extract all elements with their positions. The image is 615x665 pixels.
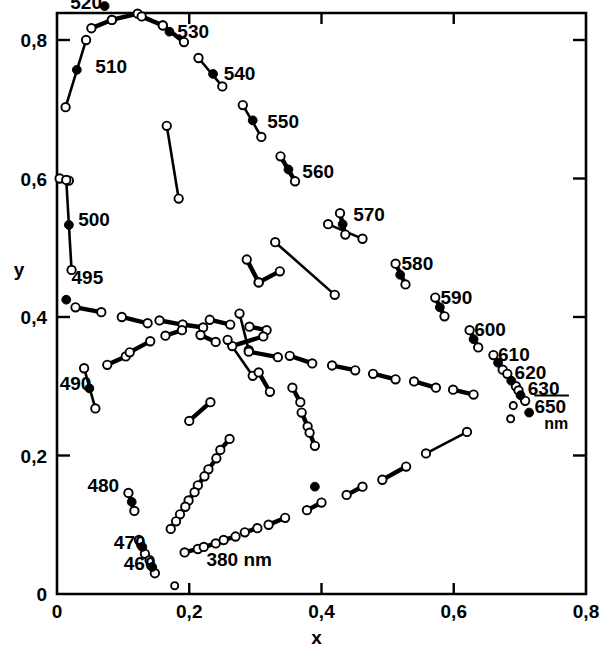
segment-endpoint-marker [401, 280, 409, 288]
segment-endpoint-marker [254, 368, 262, 376]
segment-endpoint-marker [324, 220, 332, 228]
segment-endpoint-marker [196, 331, 204, 339]
isolated-point-marker [507, 415, 514, 422]
segment-endpoint-marker [223, 336, 231, 344]
segment-endpoint-marker [431, 293, 439, 301]
macadam-segment [385, 468, 404, 478]
segment-endpoint-marker [241, 528, 249, 536]
macadam-segment [125, 318, 145, 323]
macadam-segment [213, 320, 228, 323]
segment-endpoint-marker [281, 514, 289, 522]
macadam-segment [293, 357, 310, 363]
reference-wavelength-dot [62, 295, 71, 304]
segment-endpoint-marker [163, 122, 171, 130]
segment-endpoint-marker [264, 521, 272, 529]
macadam-segment [115, 14, 135, 19]
segment-endpoint-marker [286, 352, 294, 360]
segment-endpoint-marker [235, 309, 243, 317]
segment-endpoint-marker [331, 291, 339, 299]
macadam-segment [191, 404, 208, 419]
macadam-segment [248, 262, 257, 280]
wavelength-label: 480 [87, 475, 119, 496]
segment-endpoint-marker [216, 446, 224, 454]
macadam-segment [94, 21, 109, 27]
x-tick-label: 0,6 [441, 601, 467, 622]
wavelength-label: 460 [124, 553, 156, 574]
segment-endpoint-marker [308, 359, 316, 367]
segment-endpoint-marker [91, 404, 99, 412]
wavelength-label: 490 [60, 373, 92, 394]
segment-endpoint-marker [130, 507, 138, 515]
segment-endpoint-marker [378, 476, 386, 484]
wavelength-label: 500 [78, 209, 110, 230]
x-axis-title: x [311, 627, 322, 648]
segment-endpoint-marker [180, 548, 188, 556]
macadam-segment [78, 308, 98, 312]
isolated-point-marker [171, 582, 178, 589]
segment-endpoint-marker [225, 435, 233, 443]
wavelength-label: 580 [402, 253, 434, 274]
x-tick-label: 0,4 [308, 601, 335, 622]
axis-tick-labels: 00,20,40,60,800,20,40,60,8xy [14, 30, 600, 648]
segment-endpoint-marker [341, 230, 349, 238]
chromaticity-diagram-figure: 5205105305405505605705805906006106206306… [0, 0, 615, 665]
segment-endpoint-marker [402, 462, 410, 470]
wavelength-label: 530 [177, 21, 209, 42]
note-380nm: 380 nm [206, 549, 271, 570]
segment-endpoint-marker [178, 326, 186, 334]
segment-endpoint-marker [200, 472, 208, 480]
segment-endpoint-marker [271, 238, 279, 246]
segment-endpoint-marker [243, 255, 251, 263]
macadam-segment [261, 273, 277, 281]
segment-endpoint-marker [61, 103, 69, 111]
wavelength-label: 470 [114, 532, 146, 553]
wavelength-label: 495 [72, 267, 104, 288]
segment-endpoint-marker [303, 506, 311, 514]
segment-endpoint-marker [71, 303, 79, 311]
segment-endpoint-marker [155, 316, 163, 324]
segment-endpoint-marker [185, 417, 193, 425]
segment-endpoint-marker [174, 194, 182, 202]
segment-endpoint-marker [161, 331, 169, 339]
segment-endpoint-marker [190, 488, 198, 496]
segment-endpoint-marker [358, 235, 366, 243]
macadam-segment [456, 390, 471, 393]
segment-endpoint-marker [291, 177, 299, 185]
segment-endpoint-marker [336, 209, 344, 217]
macadam-segment [132, 343, 147, 351]
macadam-segment [162, 321, 179, 324]
segment-endpoint-marker [231, 532, 239, 540]
segment-endpoint-marker [103, 361, 111, 369]
segment-endpoint-marker [276, 152, 284, 160]
segment-endpoint-marker [245, 347, 253, 355]
segment-endpoint-marker [297, 408, 305, 416]
segment-endpoint-marker [194, 54, 202, 62]
segment-endpoint-marker [463, 428, 471, 436]
wavelength-label: 550 [267, 111, 299, 132]
segment-endpoint-marker [137, 12, 145, 20]
wavelength-label: 650 [534, 396, 566, 417]
segment-endpoint-marker [311, 442, 319, 450]
segment-endpoint-marker [257, 133, 265, 141]
wavelength-label: 590 [441, 287, 473, 308]
y-axis-title: y [14, 259, 25, 280]
segment-endpoint-marker [212, 338, 220, 346]
wavelength-label: 570 [353, 204, 385, 225]
segment-endpoint-marker [118, 313, 126, 321]
x-tick-label: 0,8 [573, 601, 599, 622]
segment-endpoint-marker [206, 398, 214, 406]
segment-endpoint-marker [245, 322, 253, 330]
reference-wavelength-dot [516, 391, 525, 400]
macadam-segment [144, 18, 160, 25]
segment-endpoint-marker [266, 388, 274, 396]
segment-endpoint-marker [108, 16, 116, 24]
segment-endpoint-marker [143, 319, 151, 327]
segment-endpoint-marker [146, 337, 154, 345]
segment-endpoint-marker [82, 36, 90, 44]
reference-wavelength-dot [248, 116, 257, 125]
segment-endpoint-marker [489, 351, 497, 359]
macadam-segment [167, 129, 178, 196]
macadam-segment [429, 433, 465, 452]
macadam-segment [252, 352, 275, 356]
nm-unit-label: nm [544, 415, 568, 432]
